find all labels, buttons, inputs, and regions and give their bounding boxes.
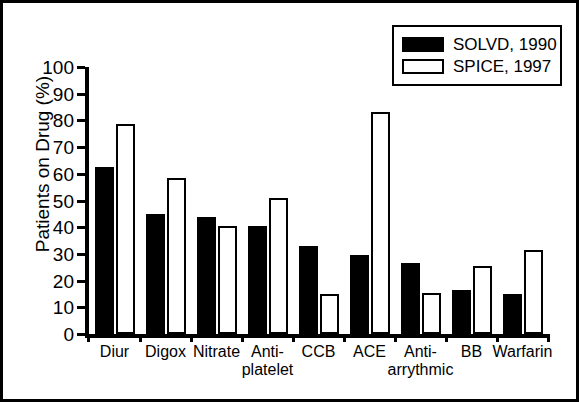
- legend-item-solvd: SOLVD, 1990: [402, 33, 552, 55]
- y-tick-label: 90: [53, 84, 74, 103]
- bar-spice-anti-arrythmic: [422, 293, 441, 334]
- bar-solvd-nitrate: [197, 217, 216, 334]
- bar-solvd-ccb: [299, 246, 318, 334]
- bar-solvd-diur: [95, 167, 114, 334]
- x-category-label-line1: Anti-: [404, 343, 437, 360]
- y-axis-line: [85, 67, 89, 334]
- y-tick-mark: [77, 306, 85, 309]
- x-category-label: CCB: [302, 343, 336, 361]
- y-tick-mark: [77, 226, 85, 229]
- x-category-label-line1: Digox: [145, 343, 186, 360]
- x-category-label: Anti-platelet: [242, 343, 294, 379]
- y-tick-label: 40: [53, 218, 74, 237]
- x-tick-mark: [241, 334, 244, 342]
- y-tick-mark: [77, 146, 85, 149]
- bar-spice-ccb: [320, 294, 339, 334]
- bar-solvd-digox: [146, 214, 165, 334]
- plot-area: 0102030405060708090100: [89, 67, 548, 334]
- y-tick-label: 80: [53, 111, 74, 130]
- x-category-label: Warfarin: [493, 343, 553, 361]
- bar-solvd-warfarin: [503, 294, 522, 334]
- y-tick-label: 0: [63, 325, 74, 344]
- y-tick-mark: [77, 253, 85, 256]
- x-category-label-line1: BB: [461, 343, 482, 360]
- x-tick-mark: [292, 334, 295, 342]
- legend-label-spice: SPICE, 1997: [453, 58, 551, 75]
- x-tick-mark: [547, 334, 550, 342]
- y-tick-label: 70: [53, 138, 74, 157]
- y-tick-mark: [77, 66, 85, 69]
- x-category-label: Digox: [145, 343, 186, 361]
- x-tick-mark: [496, 334, 499, 342]
- bar-solvd-anti-platelet: [248, 226, 267, 334]
- y-tick-label: 60: [53, 164, 74, 183]
- bar-spice-anti-platelet: [269, 198, 288, 334]
- x-tick-mark: [190, 334, 193, 342]
- bar-solvd-bb: [452, 290, 471, 334]
- x-category-label-line2: platelet: [242, 361, 294, 379]
- x-category-label-line1: Warfarin: [493, 343, 553, 360]
- x-category-label-line1: Diur: [100, 343, 129, 360]
- bar-spice-bb: [473, 266, 492, 334]
- y-tick-mark: [77, 280, 85, 283]
- y-tick-mark: [77, 119, 85, 122]
- bar-spice-warfarin: [524, 250, 543, 334]
- x-category-label: Anti-arrythmic: [388, 343, 454, 379]
- legend-item-spice: SPICE, 1997: [402, 55, 552, 77]
- x-category-label: Nitrate: [193, 343, 240, 361]
- y-tick-label: 100: [42, 58, 74, 77]
- bar-spice-diur: [116, 124, 135, 334]
- chart-legend: SOLVD, 1990 SPICE, 1997: [392, 25, 562, 86]
- x-tick-mark: [394, 334, 397, 342]
- y-tick-mark: [77, 200, 85, 203]
- legend-swatch-filled-icon: [402, 37, 444, 52]
- y-tick-mark: [77, 173, 85, 176]
- bar-solvd-anti-arrythmic: [401, 263, 420, 334]
- bar-spice-nitrate: [218, 226, 237, 334]
- x-tick-mark: [87, 334, 90, 342]
- x-tick-mark: [445, 334, 448, 342]
- y-tick-mark: [77, 93, 85, 96]
- x-category-label-line2: arrythmic: [388, 361, 454, 379]
- x-category-label-line1: Nitrate: [193, 343, 240, 360]
- bar-spice-digox: [167, 178, 186, 334]
- legend-label-solvd: SOLVD, 1990: [453, 36, 557, 53]
- x-category-label-line1: Anti-: [251, 343, 284, 360]
- chart-figure: SOLVD, 1990 SPICE, 1997 Patients on Drug…: [0, 0, 579, 402]
- y-tick-label: 50: [53, 191, 74, 210]
- x-tick-mark: [139, 334, 142, 342]
- y-tick-label: 10: [53, 298, 74, 317]
- x-category-label: BB: [461, 343, 482, 361]
- x-category-label-line1: ACE: [353, 343, 386, 360]
- x-axis-line: [85, 334, 548, 338]
- y-tick-label: 20: [53, 271, 74, 290]
- bar-solvd-ace: [350, 255, 369, 334]
- bar-spice-ace: [371, 112, 390, 334]
- y-tick-mark: [77, 333, 85, 336]
- y-tick-label: 30: [53, 244, 74, 263]
- legend-swatch-hollow-icon: [402, 59, 444, 74]
- x-category-label-line1: CCB: [302, 343, 336, 360]
- x-tick-mark: [343, 334, 346, 342]
- x-category-label: ACE: [353, 343, 386, 361]
- x-category-label: Diur: [100, 343, 129, 361]
